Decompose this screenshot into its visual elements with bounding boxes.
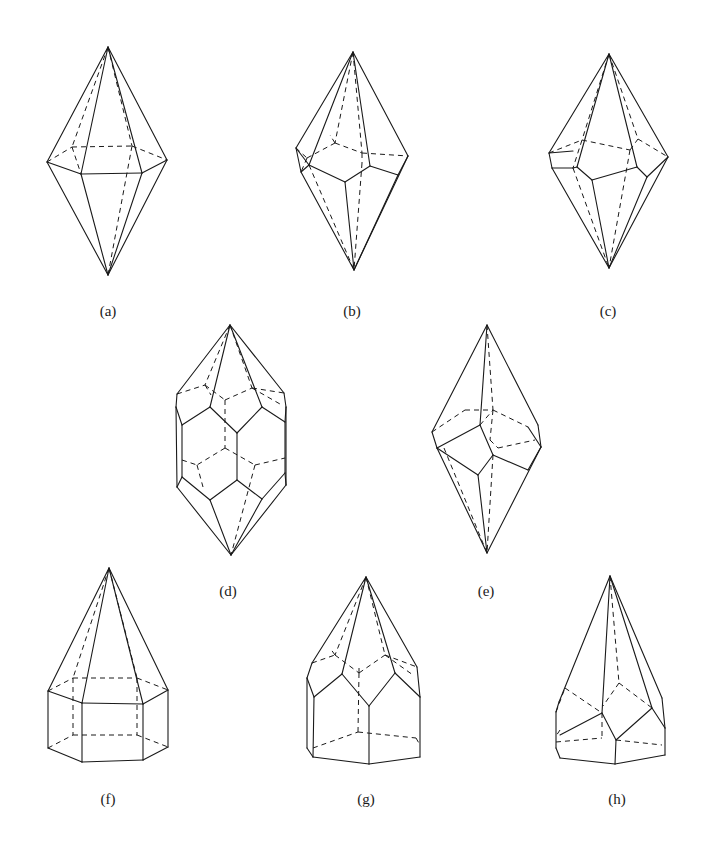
visible-edge	[647, 157, 668, 177]
hidden-edge	[330, 135, 335, 143]
visible-edge	[231, 485, 286, 555]
visible-edge	[549, 153, 552, 168]
visible-edge	[312, 577, 366, 663]
visible-edge	[230, 325, 284, 393]
visible-edge	[616, 708, 652, 740]
visible-edge	[48, 568, 109, 691]
hidden-edge	[498, 440, 535, 448]
visible-edge	[370, 166, 398, 175]
hidden-edge	[480, 410, 493, 425]
hidden-edge	[556, 730, 560, 736]
hidden-edge	[231, 465, 255, 555]
hidden-edge	[493, 410, 528, 427]
hidden-edge	[137, 735, 168, 747]
visible-edge	[143, 690, 168, 704]
panel-label-f: (f)	[101, 791, 116, 808]
visible-edge	[637, 167, 647, 177]
visible-edge	[437, 448, 487, 553]
panel-label-d: (d)	[219, 583, 237, 600]
visible-edge	[345, 166, 370, 182]
visible-edge	[301, 172, 354, 270]
panel-label-a: (a)	[100, 303, 117, 320]
visible-edge	[615, 740, 616, 764]
visible-edge	[602, 713, 616, 740]
visible-edge	[610, 576, 652, 708]
hidden-edge	[225, 388, 252, 400]
crystal-panel-b	[296, 52, 408, 270]
visible-edge	[176, 407, 177, 487]
hidden-edge	[335, 655, 359, 673]
visible-edge	[437, 425, 480, 448]
hidden-edge	[177, 385, 205, 394]
hidden-edge	[335, 577, 366, 655]
visible-edge	[47, 47, 108, 162]
hidden-edge	[385, 655, 413, 675]
visible-edge	[366, 577, 395, 673]
visible-edge	[609, 54, 637, 167]
crystal-panel-h	[556, 576, 665, 764]
hidden-edge	[48, 735, 73, 748]
hidden-edge	[490, 440, 498, 448]
visible-edge	[487, 325, 538, 425]
hidden-edge	[108, 146, 132, 275]
hidden-edge	[556, 738, 602, 742]
visible-edge	[210, 500, 231, 555]
visible-edge	[284, 393, 286, 407]
visible-edge	[609, 157, 668, 268]
hidden-edge	[549, 140, 582, 153]
visible-edge	[182, 407, 210, 425]
hidden-edge	[313, 732, 358, 748]
visible-edge	[81, 173, 142, 174]
visible-edge	[176, 394, 177, 407]
visible-edge	[556, 748, 560, 758]
visible-edge	[342, 577, 366, 674]
visible-edge	[108, 160, 167, 275]
hidden-edge	[573, 168, 609, 268]
hidden-edge	[197, 448, 225, 465]
visible-edge	[48, 691, 82, 703]
visible-edge	[82, 568, 109, 703]
hidden-edge	[366, 577, 385, 655]
visible-edge	[82, 760, 143, 762]
hidden-edge	[358, 732, 416, 738]
visible-edge	[493, 455, 528, 470]
visible-edge	[108, 47, 167, 160]
visible-edge	[177, 487, 231, 555]
panel-label-b: (b)	[343, 303, 361, 320]
visible-edge	[552, 168, 609, 268]
visible-edge	[237, 407, 262, 433]
visible-edge	[262, 473, 285, 499]
visible-edge	[48, 748, 82, 762]
hidden-edge	[432, 410, 465, 432]
visible-edge	[210, 480, 237, 500]
visible-edge	[560, 758, 615, 764]
hidden-edge	[490, 410, 493, 440]
hidden-edge	[603, 683, 619, 706]
hidden-edge	[312, 655, 335, 663]
visible-edge	[354, 156, 408, 270]
visible-edge	[231, 499, 262, 555]
hidden-edge	[205, 385, 211, 395]
crystal-panel-d	[176, 325, 286, 555]
hidden-edge	[487, 455, 493, 553]
visible-edge	[307, 748, 313, 757]
hidden-edge	[610, 576, 619, 683]
hidden-edge	[565, 688, 602, 713]
visible-edge	[177, 477, 182, 487]
visible-edge	[307, 678, 314, 697]
hidden-edge	[416, 738, 420, 745]
visible-edge	[47, 162, 108, 275]
visible-edge	[432, 432, 437, 448]
crystal-panel-g	[307, 577, 420, 764]
visible-edge	[309, 52, 353, 165]
hidden-edge	[255, 458, 285, 465]
hidden-edge	[330, 648, 335, 655]
visible-edge	[478, 455, 493, 475]
crystal-panel-e	[432, 325, 541, 553]
visible-edge	[609, 177, 647, 268]
crystal-panel-c	[549, 54, 668, 268]
hidden-edge	[609, 150, 630, 268]
visible-edge	[432, 325, 487, 432]
visible-edge	[309, 165, 345, 182]
visible-edge	[369, 673, 395, 706]
